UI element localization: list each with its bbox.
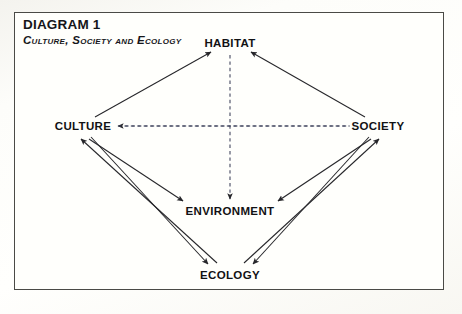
- figure-page: DIAGRAM 1 Culture, Society and Ecology: [0, 0, 462, 314]
- diagram-graph: [15, 13, 445, 291]
- diagram-frame: DIAGRAM 1 Culture, Society and Ecology: [14, 12, 444, 290]
- edge-culture-habitat: [95, 52, 211, 117]
- edge-ecology-society: [244, 139, 379, 263]
- edge-culture-ecology: [91, 137, 208, 264]
- edge-society-environment: [278, 139, 371, 201]
- node-ecology: ECOLOGY: [198, 269, 262, 281]
- node-society: SOCIETY: [350, 120, 407, 132]
- edge-culture-environment: [89, 139, 183, 201]
- edge-society-ecology: [253, 137, 369, 264]
- edge-ecology-culture: [81, 139, 217, 263]
- node-habitat: HABITAT: [202, 37, 257, 49]
- node-culture: CULTURE: [53, 120, 114, 132]
- edge-society-habitat: [251, 52, 365, 117]
- node-environment: ENVIRONMENT: [184, 205, 277, 217]
